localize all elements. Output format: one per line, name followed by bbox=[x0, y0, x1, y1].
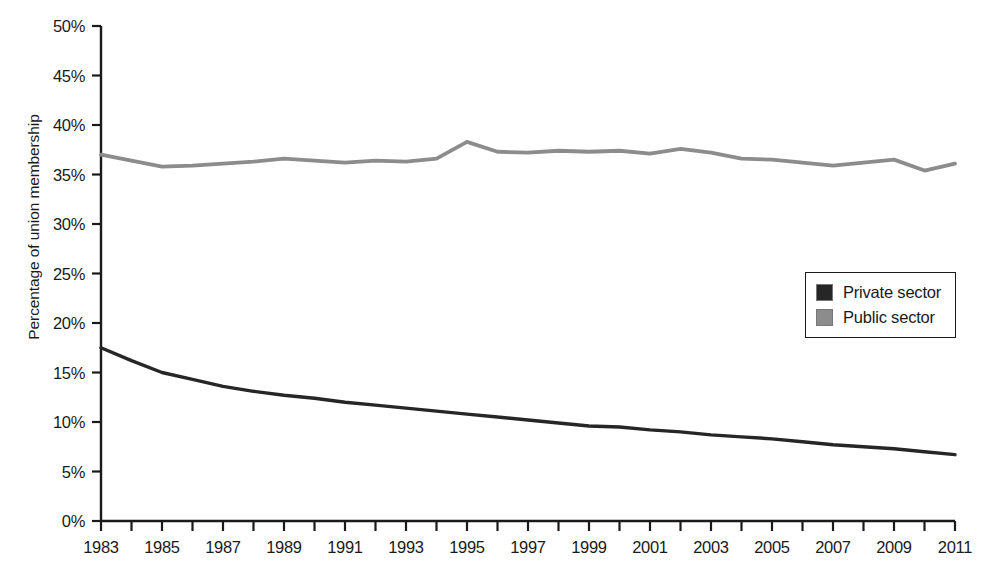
y-tick-label: 50% bbox=[53, 17, 86, 35]
legend-item-public-sector: Public sector bbox=[816, 305, 941, 330]
y-axis-tick-labels: 0%5%10%15%20%25%30%35%40%45%50% bbox=[53, 17, 86, 530]
x-tick-label: 2001 bbox=[632, 538, 668, 556]
y-tick-label: 5% bbox=[62, 463, 86, 481]
x-axis-tick-marks bbox=[101, 521, 955, 531]
y-tick-label: 35% bbox=[53, 166, 86, 184]
y-axis-tick-marks bbox=[92, 26, 101, 521]
x-tick-label: 1995 bbox=[449, 538, 485, 556]
x-tick-label: 2003 bbox=[693, 538, 729, 556]
x-tick-label: 2011 bbox=[938, 538, 972, 556]
x-tick-label: 2007 bbox=[815, 538, 851, 556]
x-tick-label: 1987 bbox=[205, 538, 241, 556]
legend-item-private-sector: Private sector bbox=[816, 280, 941, 305]
legend-label-private-sector: Private sector bbox=[843, 283, 941, 302]
chart-legend: Private sector Public sector bbox=[805, 272, 956, 338]
x-tick-label: 1991 bbox=[327, 538, 363, 556]
y-tick-label: 40% bbox=[53, 116, 86, 134]
x-tick-label: 1999 bbox=[571, 538, 607, 556]
y-tick-label: 15% bbox=[53, 364, 86, 382]
legend-label-public-sector: Public sector bbox=[843, 308, 935, 327]
x-tick-label: 1985 bbox=[144, 538, 180, 556]
x-tick-label: 1983 bbox=[83, 538, 119, 556]
x-tick-label: 1997 bbox=[510, 538, 546, 556]
union-membership-line-chart: Percentage of union membership 0%5%10%15… bbox=[0, 0, 983, 571]
y-tick-label: 25% bbox=[53, 265, 86, 283]
y-tick-label: 0% bbox=[62, 512, 86, 530]
legend-swatch-public-sector bbox=[816, 309, 833, 326]
x-tick-label: 2009 bbox=[876, 538, 912, 556]
y-tick-label: 20% bbox=[53, 314, 86, 332]
x-tick-label: 2005 bbox=[754, 538, 790, 556]
x-tick-label: 1989 bbox=[266, 538, 302, 556]
legend-swatch-private-sector bbox=[816, 284, 833, 301]
x-tick-label: 1993 bbox=[388, 538, 424, 556]
series-line-private-sector bbox=[101, 348, 955, 455]
y-tick-label: 30% bbox=[53, 215, 86, 233]
y-tick-label: 10% bbox=[53, 413, 86, 431]
y-tick-label: 45% bbox=[53, 67, 86, 85]
series-line-public-sector bbox=[101, 142, 955, 171]
x-axis-tick-labels: 1983198519871989199119931995199719992001… bbox=[83, 538, 972, 556]
